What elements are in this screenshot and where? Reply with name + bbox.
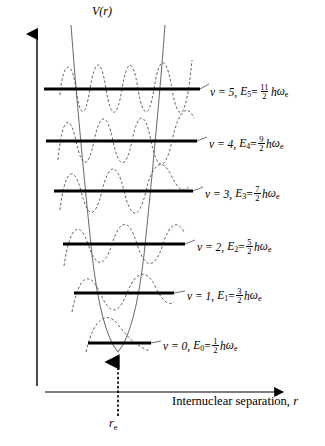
level-quantum-number-v2: v = 2, xyxy=(197,242,224,254)
y-axis-label: V(r) xyxy=(92,5,112,17)
equals-sign: = xyxy=(204,341,211,353)
fraction-numerator: 5 xyxy=(246,238,252,247)
leader-line-v0 xyxy=(151,341,161,343)
equals-sign: = xyxy=(238,242,245,254)
fraction-denominator: 2 xyxy=(212,345,218,355)
omega-symbol: ωe xyxy=(260,241,272,254)
omega-symbol: ωe xyxy=(272,138,284,151)
equilibrium-distance-label: re xyxy=(109,417,117,432)
leader-line-v2 xyxy=(185,240,195,244)
level-quantum-number-v1: v = 1, xyxy=(187,291,214,303)
fraction-numerator: 9 xyxy=(258,135,264,144)
wavefunction-v5 xyxy=(60,60,192,112)
level-energy-symbol-v5: E5 xyxy=(240,86,251,99)
energy-coefficient-fraction-v4: 92 xyxy=(258,135,264,154)
energy-coefficient-fraction-v0: 12 xyxy=(212,337,218,356)
level-quantum-number-v5: v = 5, xyxy=(210,87,237,99)
equals-sign: = xyxy=(228,291,235,303)
energy-coefficient-fraction-v5: 112 xyxy=(259,83,269,102)
x-axis-label-text: Internuclear separation, xyxy=(172,394,293,408)
fraction-denominator: 2 xyxy=(254,193,260,203)
level-energy-symbol-v3: E3 xyxy=(235,188,246,201)
energy-level-label-v3: v = 3,E3 = 72hωe xyxy=(205,185,279,204)
potential-energy-curve xyxy=(71,25,165,352)
omega-symbol: ωe xyxy=(268,188,280,201)
energy-level-label-v5: v = 5,E5 = 112hωe xyxy=(210,83,288,102)
leader-line-v5 xyxy=(200,84,209,89)
equals-sign: = xyxy=(246,189,253,201)
wavefunction-v0 xyxy=(86,318,150,352)
leader-line-v4 xyxy=(197,137,207,141)
fraction-denominator: 2 xyxy=(246,246,252,256)
omega-symbol: ωe xyxy=(250,290,262,303)
energy-level-label-v2: v = 2,E2 = 52hωe xyxy=(197,238,271,257)
level-energy-symbol-v2: E2 xyxy=(227,241,238,254)
energy-level-label-v4: v = 4,E4 = 92hωe xyxy=(209,135,283,154)
x-axis-label-symbol: r xyxy=(293,394,298,408)
fraction-denominator: 2 xyxy=(261,91,267,101)
fraction-denominator: 2 xyxy=(236,295,242,305)
figure-canvas: V(r) Internuclear separation, r re v = 5… xyxy=(0,0,325,446)
energy-coefficient-fraction-v3: 72 xyxy=(254,185,260,204)
equals-sign: = xyxy=(250,139,257,151)
energy-coefficient-fraction-v1: 32 xyxy=(236,287,242,306)
level-energy-symbol-v0: E0 xyxy=(193,340,204,353)
omega-symbol: ωe xyxy=(277,86,289,99)
level-energy-symbol-v4: E4 xyxy=(239,138,250,151)
leader-line-v1 xyxy=(174,291,185,293)
leader-line-v3 xyxy=(193,187,203,191)
energy-level-label-v1: v = 1,E1 = 32hωe xyxy=(187,287,261,306)
level-quantum-number-v0: v = 0, xyxy=(163,341,190,353)
equals-sign: = xyxy=(251,87,258,99)
wavefunction-v3 xyxy=(60,165,189,213)
level-quantum-number-v4: v = 4, xyxy=(209,139,236,151)
fraction-denominator: 2 xyxy=(258,143,264,153)
harmonic-oscillator-diagram xyxy=(0,0,325,446)
fraction-numerator: 11 xyxy=(259,83,269,92)
fraction-numerator: 7 xyxy=(254,185,260,194)
omega-symbol: ωe xyxy=(226,340,238,353)
energy-level-label-v0: v = 0,E0 = 12hωe xyxy=(163,337,237,356)
energy-coefficient-fraction-v2: 52 xyxy=(246,238,252,257)
fraction-numerator: 1 xyxy=(212,337,218,346)
x-axis-label: Internuclear separation, r xyxy=(172,395,298,408)
level-quantum-number-v3: v = 3, xyxy=(205,189,232,201)
level-energy-symbol-v1: E1 xyxy=(217,290,228,303)
fraction-numerator: 3 xyxy=(236,287,242,296)
